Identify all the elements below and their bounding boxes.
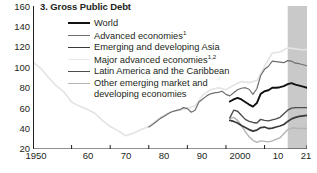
chart-legend: World Advanced economies1 Emerging and d… xyxy=(68,17,229,99)
legend-item-advanced-economies: Advanced economies1 xyxy=(68,29,229,41)
y-tick-label: 40 xyxy=(19,124,30,134)
x-tick-label: 10 xyxy=(268,151,288,161)
legend-swatch xyxy=(68,47,90,48)
x-tick-label: 90 xyxy=(192,151,212,161)
x-tick-label: 21 xyxy=(297,151,315,161)
legend-item-latin-america-caribbean: Latin America and the Caribbean xyxy=(68,65,229,77)
legend-item-major-advanced-economies: Major advanced economies1,2 xyxy=(68,53,229,65)
x-tick-label: 60 xyxy=(78,151,98,161)
y-tick-label: 80 xyxy=(19,83,30,93)
y-tick-label: 120 xyxy=(14,42,30,52)
y-axis-labels: 160 140 120 100 80 60 40 20 xyxy=(0,0,30,173)
legend-swatch xyxy=(68,35,90,36)
y-tick-label: 160 xyxy=(14,2,30,12)
legend-label: Other emerging market and xyxy=(94,78,208,88)
x-tick-label: 70 xyxy=(116,151,136,161)
legend-label: Latin America and the Caribbean xyxy=(94,66,229,76)
legend-swatch xyxy=(68,83,90,84)
legend-swatch xyxy=(68,59,90,60)
forecast-shading xyxy=(288,6,307,149)
x-tick-label: 1950 xyxy=(21,151,51,161)
legend-swatch xyxy=(68,22,90,24)
legend-label: World xyxy=(94,18,118,28)
chart-figure: 3. Gross Public Debt 160 140 120 100 80 … xyxy=(0,0,317,173)
legend-swatch xyxy=(68,71,90,72)
y-tick-label: 100 xyxy=(14,63,30,73)
x-tick-label: 80 xyxy=(154,151,174,161)
legend-item-world: World xyxy=(68,17,229,29)
y-tick-label: 60 xyxy=(19,104,30,114)
legend-item-emerging-developing-asia: Emerging and developing Asia xyxy=(68,41,229,53)
legend-label: Major advanced economies xyxy=(94,56,208,66)
x-axis-labels: 1950 60 70 80 90 2000 10 21 xyxy=(0,151,317,173)
y-tick-label: 140 xyxy=(14,22,30,32)
legend-item-other-emerging: Other emerging market and xyxy=(68,77,229,89)
legend-label: Emerging and developing Asia xyxy=(94,42,220,52)
x-tick-label: 2000 xyxy=(225,151,255,161)
legend-footnote: 1 xyxy=(183,29,186,36)
legend-footnote: 1,2 xyxy=(208,53,217,60)
legend-label-continuation: developing economies xyxy=(94,89,229,99)
legend-label: Advanced economies xyxy=(94,32,183,42)
